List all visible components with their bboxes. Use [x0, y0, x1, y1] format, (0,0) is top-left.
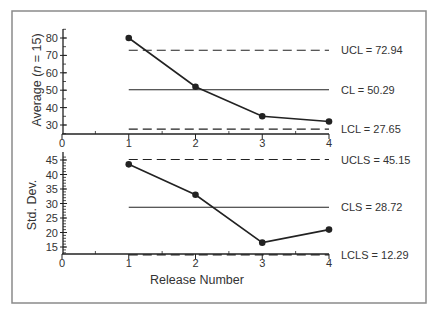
- y-tick-label: 30: [46, 119, 58, 131]
- data-point: [192, 192, 199, 199]
- data-point: [192, 83, 199, 90]
- lcls-label: LCLS = 12.29: [341, 249, 409, 261]
- ucls-label: UCLS = 45.15: [341, 154, 410, 166]
- x-tick-label: 3: [259, 137, 265, 149]
- ucl-label: UCL = 72.94: [341, 44, 403, 56]
- y-tick-label: 60: [46, 67, 58, 79]
- cls-label: CLS = 28.72: [341, 201, 402, 213]
- cl-label: CL = 50.29: [341, 84, 395, 96]
- x-tick-label: 2: [192, 137, 198, 149]
- data-point: [259, 113, 266, 120]
- y-axis-title-average: Average (n = 15): [30, 33, 44, 126]
- y-tick-label: 80: [46, 32, 58, 44]
- data-point: [125, 35, 132, 42]
- y-axis-title-stddev: Std. Dev.: [25, 180, 39, 230]
- y-tick-label: 50: [46, 84, 58, 96]
- x-tick-label: 2: [192, 257, 198, 269]
- x-tick-label: 4: [326, 257, 332, 269]
- x-tick-label: 3: [259, 257, 265, 269]
- data-point: [326, 118, 333, 125]
- y-tick-label: 15: [46, 241, 58, 253]
- y-tick-label: 25: [46, 212, 58, 224]
- y-tick-label: 30: [46, 198, 58, 210]
- y-tick-label: 45: [46, 154, 58, 166]
- y-tick-label: 40: [46, 169, 58, 181]
- lcl-label: LCL = 27.65: [341, 123, 401, 135]
- data-point: [326, 226, 333, 233]
- data-point: [259, 239, 266, 246]
- x-tick-label: 0: [59, 257, 65, 269]
- x-axis-title: Release Number: [150, 273, 244, 287]
- y-tick-label: 20: [46, 227, 58, 239]
- control-chart-figure: Average (n = 15) 30405060708001234 UCL =…: [0, 0, 438, 312]
- x-tick-label: 1: [126, 137, 132, 149]
- x-tick-label: 4: [326, 137, 332, 149]
- data-point: [125, 161, 132, 168]
- y-tick-label: 40: [46, 102, 58, 114]
- x-tick-label: 0: [59, 137, 65, 149]
- x-tick-label: 1: [126, 257, 132, 269]
- y-tick-label: 70: [46, 49, 58, 61]
- y-tick-label: 35: [46, 183, 58, 195]
